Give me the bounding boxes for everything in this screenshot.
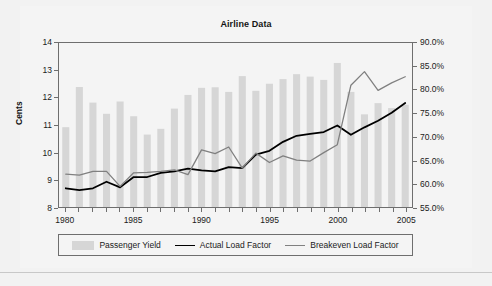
bar-swatch-icon — [72, 241, 94, 250]
y-axis-right-tick — [413, 113, 417, 114]
x-axis-tick — [229, 208, 230, 212]
y-axis-right-tick-label: 70.0% — [420, 132, 460, 142]
y-axis-right-tick — [413, 184, 417, 185]
x-axis-tick-label: 1990 — [192, 215, 211, 225]
page-divider — [0, 272, 492, 273]
y-axis-left-tick — [54, 208, 58, 209]
y-axis-left-tick-label: 10 — [26, 148, 52, 158]
y-axis-right-tick — [413, 161, 417, 162]
x-axis-tick — [406, 208, 407, 212]
x-axis-tick — [393, 208, 394, 212]
x-axis-tick-label: 1995 — [260, 215, 279, 225]
x-axis-tick — [297, 208, 298, 212]
x-axis-tick — [283, 208, 284, 212]
x-axis-tick — [379, 208, 380, 212]
y-axis-left-tick-label: 13 — [26, 65, 52, 75]
chart-container: Airline Data Cents 891011121314 55.0%60.… — [20, 6, 472, 268]
x-axis-tick — [270, 208, 271, 212]
y-axis-title: Cents — [14, 101, 24, 125]
x-axis-tick — [188, 208, 189, 212]
x-axis-tick — [324, 208, 325, 212]
y-axis-right-tick-label: 85.0% — [420, 61, 460, 71]
y-axis-left-tick-label: 12 — [26, 92, 52, 102]
legend-item-breakeven-load-factor: Breakeven Load Factor — [285, 240, 398, 250]
x-axis-tick — [338, 208, 339, 212]
y-axis-left-tick-label: 11 — [26, 120, 52, 130]
chart-legend: Passenger Yield Actual Load Factor Break… — [58, 234, 413, 256]
legend-label-passenger-yield: Passenger Yield — [99, 240, 160, 250]
page-background: Airline Data Cents 891011121314 55.0%60.… — [0, 0, 492, 286]
line-series — [66, 103, 405, 190]
y-axis-right-tick-label: 90.0% — [420, 37, 460, 47]
y-axis-left-tick-label: 9 — [26, 175, 52, 185]
x-axis-tick — [92, 208, 93, 212]
load-factor-lines — [59, 43, 412, 207]
y-axis-right-tick — [413, 137, 417, 138]
x-axis-tick-label: 1985 — [124, 215, 143, 225]
legend-item-passenger-yield: Passenger Yield — [72, 240, 160, 250]
x-axis-tick — [160, 208, 161, 212]
x-axis-tick-label: 2005 — [397, 215, 416, 225]
legend-label-breakeven-load-factor: Breakeven Load Factor — [310, 240, 398, 250]
x-axis-tick — [215, 208, 216, 212]
x-axis-tick — [106, 208, 107, 212]
x-axis-tick — [242, 208, 243, 212]
x-axis-tick — [78, 208, 79, 212]
line-series — [66, 72, 405, 187]
x-axis-tick — [147, 208, 148, 212]
chart-title: Airline Data — [20, 19, 472, 29]
y-axis-right-tick-label: 55.0% — [420, 203, 460, 213]
x-axis-tick — [65, 208, 66, 212]
x-axis-tick — [174, 208, 175, 212]
plot-area — [58, 42, 413, 208]
y-axis-right-tick — [413, 89, 417, 90]
x-axis-tick — [311, 208, 312, 212]
y-axis-right-tick — [413, 208, 417, 209]
legend-label-actual-load-factor: Actual Load Factor — [200, 240, 271, 250]
x-axis-tick-label: 2000 — [328, 215, 347, 225]
x-axis-tick — [365, 208, 366, 212]
y-axis-right-tick-label: 75.0% — [420, 108, 460, 118]
x-axis-tick — [133, 208, 134, 212]
line-swatch-gray-icon — [285, 245, 305, 246]
x-axis-tick — [352, 208, 353, 212]
x-axis-tick — [201, 208, 202, 212]
y-axis-right-tick — [413, 42, 417, 43]
line-swatch-black-icon — [175, 245, 195, 246]
legend-item-actual-load-factor: Actual Load Factor — [175, 240, 271, 250]
y-axis-left-tick-label: 14 — [26, 37, 52, 47]
y-axis-right-tick — [413, 66, 417, 67]
y-axis-right-tick-label: 65.0% — [420, 156, 460, 166]
x-axis-tick — [119, 208, 120, 212]
y-axis-right-tick-label: 60.0% — [420, 179, 460, 189]
x-axis-tick — [256, 208, 257, 212]
y-axis-right-tick-label: 80.0% — [420, 84, 460, 94]
y-axis-left-tick-label: 8 — [26, 203, 52, 213]
x-axis-tick-label: 1980 — [55, 215, 74, 225]
